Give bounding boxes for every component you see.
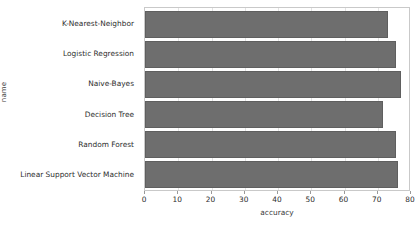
x-axis-title: accuracy (144, 208, 410, 217)
x-axis-tick-mark (310, 191, 311, 194)
bar (145, 71, 401, 98)
y-axis-tick-label: Decision Tree (0, 99, 139, 129)
x-axis-tick-label: 70 (372, 195, 381, 204)
bar-row (145, 9, 409, 39)
x-axis-tick-mark (211, 191, 212, 194)
x-axis-tick-label: 40 (272, 195, 281, 204)
bar (145, 41, 396, 68)
bar-row (145, 99, 409, 129)
bar-row (145, 159, 409, 189)
x-axis-tick-label: 30 (239, 195, 248, 204)
x-axis-tick-mark (377, 191, 378, 194)
x-axis-tick-mark (344, 191, 345, 194)
x-axis-tick-label: 10 (173, 195, 182, 204)
bar-row (145, 69, 409, 99)
x-axis-tick-mark (410, 191, 411, 194)
bar-row (145, 129, 409, 159)
y-axis-tick-label: Random Forest (0, 129, 139, 159)
bar-series (145, 8, 409, 190)
x-axis-tick-label: 60 (339, 195, 348, 204)
y-axis-tick-label: Naive-Bayes (0, 69, 139, 99)
x-axis-tick-labels: 01020304050607080 (144, 195, 410, 207)
plot-area (144, 7, 410, 191)
bar-chart-figure: name K-Nearest-NeighborLogistic Regressi… (0, 0, 416, 232)
bar (145, 131, 396, 158)
bar-row (145, 39, 409, 69)
x-axis-tick-mark (177, 191, 178, 194)
x-axis-tick-label: 0 (142, 195, 147, 204)
x-axis-tick-mark (277, 191, 278, 194)
x-axis-tick-label: 80 (405, 195, 414, 204)
bar (145, 101, 383, 128)
bar (145, 11, 388, 38)
y-axis-tick-label: K-Nearest-Neighbor (0, 8, 139, 38)
x-axis-tick-mark (244, 191, 245, 194)
x-axis-tick-label: 20 (206, 195, 215, 204)
bar (145, 161, 398, 188)
y-axis-tick-labels: K-Nearest-NeighborLogistic RegressionNai… (0, 8, 139, 190)
x-axis-tick-mark (144, 191, 145, 194)
y-axis-tick-label: Linear Support Vector Machine (0, 160, 139, 190)
x-axis-tick-label: 50 (306, 195, 315, 204)
y-axis-tick-label: Logistic Regression (0, 38, 139, 68)
